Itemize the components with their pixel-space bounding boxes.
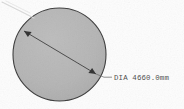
engineering-drawing-canvas: DIA 4660.0mm [0, 0, 184, 109]
paper-grain-overlay [0, 0, 184, 109]
drawing-viewport: DIA 4660.0mm [0, 0, 184, 109]
